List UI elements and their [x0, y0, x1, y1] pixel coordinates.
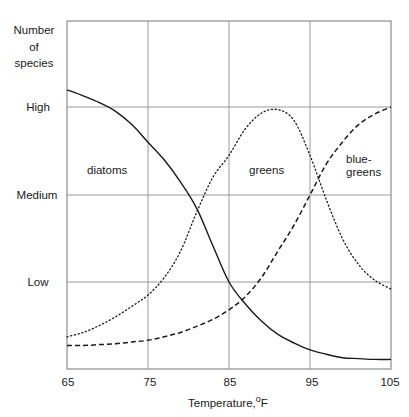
x-tick-65: 65	[62, 376, 75, 388]
y-tick-low: Low	[27, 276, 49, 288]
x-tick-95: 95	[306, 376, 319, 388]
x-axis-title-unit: F	[261, 397, 268, 409]
label-blue-greens-line-1: blue-	[346, 153, 372, 165]
x-tick-105: 105	[380, 376, 399, 388]
x-axis-title-main: Temperature,	[188, 397, 256, 409]
x-tick-85: 85	[224, 376, 237, 388]
label-blue-greens-line-2: greens	[346, 166, 381, 178]
x-tick-75: 75	[144, 376, 157, 388]
y-axis-title-line-1: Number	[14, 24, 55, 36]
label-diatoms: diatoms	[87, 164, 128, 176]
y-tick-high: High	[26, 101, 50, 113]
y-axis-title-line-3: species	[15, 57, 54, 69]
label-greens: greens	[249, 164, 284, 176]
x-axis-title: Temperature,oF	[188, 394, 268, 409]
y-tick-medium: Medium	[17, 189, 58, 201]
y-axis-title-line-2: of	[29, 41, 39, 53]
species-temperature-chart: Number of species High Medium Low 65 75 …	[0, 0, 409, 417]
